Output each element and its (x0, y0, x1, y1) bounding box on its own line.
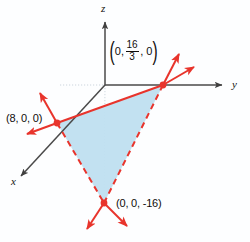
coordinate-plane-figure: y x z (8, 0, 0) (0, 0, -16) ( 0, 16 3 , … (0, 0, 250, 242)
y-axis-label: y (232, 79, 237, 90)
x-axis-label: x (11, 176, 16, 187)
y-intercept-label: ( 0, 16 3 , 0 ) (110, 40, 157, 62)
y-intercept-last-coord: , 0 (140, 46, 153, 57)
left-paren: ( (110, 41, 115, 61)
vertex-marker-y-intercept (160, 82, 167, 89)
y-intercept-first-coord: 0, (114, 46, 124, 57)
fraction-sixteen-thirds: 16 3 (126, 40, 139, 62)
x-intercept-label: (8, 0, 0) (6, 113, 42, 124)
arrow-x-upper (40, 93, 57, 123)
fraction-denominator: 3 (128, 52, 136, 62)
z-axis-label: z (101, 3, 105, 14)
vertex-marker-z-intercept (101, 200, 108, 207)
vertex-marker-x-intercept (54, 120, 61, 127)
z-intercept-label: (0, 0, -16) (116, 198, 162, 209)
fraction-numerator: 16 (126, 40, 139, 50)
arrow-x-lower (27, 123, 57, 134)
arrow-z-left (87, 203, 104, 229)
plane-region (57, 85, 163, 203)
right-paren: ) (152, 41, 157, 61)
